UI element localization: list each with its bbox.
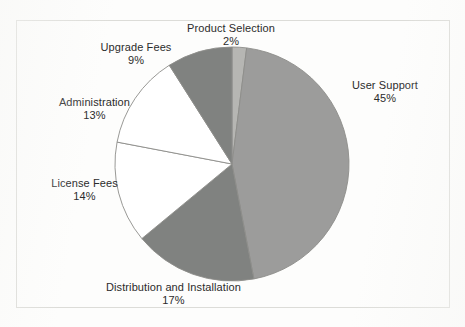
pie-slice-group [115,47,349,281]
slice-label-user-support-percent: 45% [330,92,440,105]
slice-label-administration: Administration 13% [42,96,147,122]
slice-label-administration-percent: 13% [42,109,147,122]
slice-label-distribution-and-installation-percent: 17% [86,294,261,307]
slice-label-user-support-name: User Support [330,79,440,92]
pie-chart-figure: Product Selection 2% Upgrade Fees 9% Adm… [0,0,465,327]
slice-label-upgrade-fees: Upgrade Fees 9% [84,41,188,67]
slice-label-upgrade-fees-name: Upgrade Fees [84,41,188,54]
slice-label-distribution-and-installation: Distribution and Installation 17% [86,281,261,307]
slice-label-license-fees-name: License Fees [34,177,135,190]
slice-label-user-support: User Support 45% [330,79,440,105]
slice-label-administration-name: Administration [42,96,147,109]
slice-label-upgrade-fees-percent: 9% [84,54,188,67]
slice-label-distribution-and-installation-name: Distribution and Installation [86,281,261,294]
slice-label-license-fees-percent: 14% [34,190,135,203]
pie-chart-canvas [0,0,465,327]
slice-label-license-fees: License Fees 14% [34,177,135,203]
slice-label-product-selection-name: Product Selection [166,22,296,35]
